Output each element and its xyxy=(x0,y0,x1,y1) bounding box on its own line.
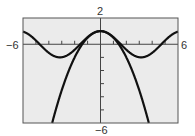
graph-plot xyxy=(0,0,195,136)
xmax-label: 6 xyxy=(181,40,187,51)
xmin-label: −6 xyxy=(6,40,19,51)
ymin-label: −6 xyxy=(95,125,108,136)
ymax-label: 2 xyxy=(97,6,103,17)
